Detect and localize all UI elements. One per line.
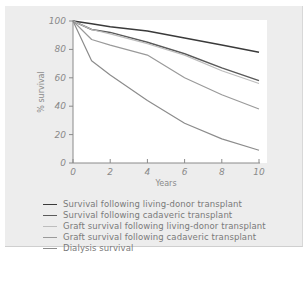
legend-item-cadaveric-survival: Survival following cadaveric transplant — [43, 210, 266, 220]
x-tick-label: 10 — [253, 167, 265, 177]
x-tick-label: 4 — [145, 167, 151, 177]
legend-swatch — [43, 215, 57, 216]
survival-chart: 020406080100 0246810 Years % survival — [0, 0, 308, 200]
x-axis-title: Years — [154, 179, 176, 188]
legend-item-living-donor-graft: Graft survival following living-donor tr… — [43, 221, 266, 231]
y-ticks: 020406080100 — [49, 16, 73, 168]
legend: Survival following living-donor transpla… — [43, 199, 266, 254]
legend-label: Survival following living-donor transpla… — [63, 199, 242, 209]
y-tick-label: 0 — [60, 158, 66, 168]
y-tick-label: 80 — [55, 44, 67, 54]
legend-label: Survival following cadaveric transplant — [63, 210, 232, 220]
legend-item-dialysis: Dialysis survival — [43, 243, 266, 253]
legend-label: Dialysis survival — [63, 243, 133, 253]
legend-swatch — [43, 237, 57, 238]
legend-swatch — [43, 248, 57, 249]
x-tick-label: 6 — [182, 167, 188, 177]
legend-label: Graft survival following living-donor tr… — [63, 221, 266, 231]
x-tick-label: 8 — [219, 167, 225, 177]
y-tick-label: 20 — [55, 130, 67, 140]
legend-item-living-donor-survival: Survival following living-donor transpla… — [43, 199, 266, 209]
y-tick-label: 60 — [55, 73, 67, 83]
y-tick-label: 100 — [49, 16, 66, 26]
x-tick-label: 0 — [70, 167, 76, 177]
x-tick-label: 2 — [107, 167, 113, 177]
legend-swatch — [43, 204, 57, 205]
y-axis-title: % survival — [37, 71, 46, 113]
legend-label: Graft survival following cadaveric trans… — [63, 232, 256, 242]
legend-swatch — [43, 226, 57, 227]
y-tick-label: 40 — [55, 101, 67, 111]
legend-item-cadaveric-graft: Graft survival following cadaveric trans… — [43, 232, 266, 242]
plot-area — [73, 20, 267, 163]
